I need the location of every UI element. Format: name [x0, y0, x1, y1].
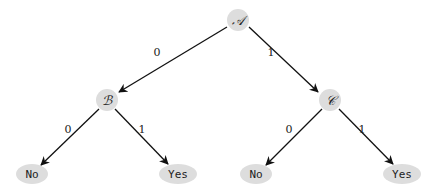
edge-label-c-leaf3: 0	[286, 123, 293, 136]
edge-label-c-leaf4: 1	[359, 123, 366, 136]
edge-a-b	[119, 27, 227, 92]
leaf-yes-right: Yes	[383, 164, 421, 184]
edge-c-leaf3	[266, 109, 322, 165]
edge-c-leaf4	[339, 109, 393, 164]
leaf-yes-right-label: Yes	[392, 168, 412, 181]
node-b: ℬ	[96, 89, 118, 111]
edge-label-a-b: 0	[154, 46, 161, 59]
node-b-label: ℬ	[102, 93, 113, 108]
leaf-no-left-label: No	[25, 168, 38, 181]
node-a: 𝒜	[227, 9, 249, 31]
edge-label-b-leaf1: 0	[65, 123, 72, 136]
leaf-no-right: No	[240, 164, 272, 184]
edge-b-leaf2	[115, 109, 168, 164]
edge-a-c	[249, 27, 318, 92]
decision-tree-diagram: 0 1 0 1 0 1 𝒜 ℬ 𝒞 No Yes No Yes	[0, 0, 435, 196]
leaf-no-left: No	[16, 164, 48, 184]
leaf-no-right-label: No	[249, 168, 262, 181]
edge-label-a-c: 1	[268, 46, 275, 59]
leaf-yes-left: Yes	[159, 164, 197, 184]
leaf-yes-left-label: Yes	[168, 168, 188, 181]
edge-label-b-leaf2: 1	[139, 123, 146, 136]
node-c: 𝒞	[319, 89, 341, 111]
edge-b-leaf1	[41, 109, 99, 165]
